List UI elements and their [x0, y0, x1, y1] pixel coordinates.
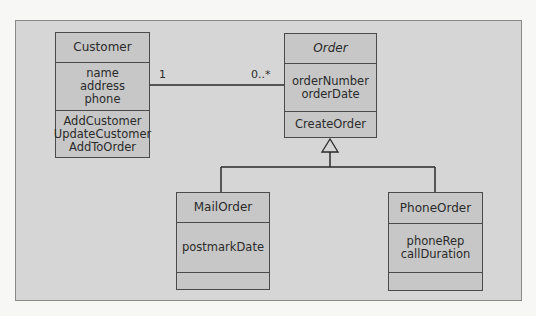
generalization-arrow-icon [322, 139, 338, 152]
class-operations: CreateOrder [285, 111, 376, 137]
class-customer[interactable]: Customer name address phone AddCustomer … [55, 32, 150, 158]
class-order[interactable]: Order orderNumber orderDate CreateOrder [284, 33, 377, 138]
attribute: orderDate [301, 88, 359, 101]
class-name: Customer [56, 33, 149, 62]
class-operations [389, 272, 482, 290]
class-name: Order [285, 34, 376, 63]
attribute: postmarkDate [182, 241, 264, 254]
operation: UpdateCustomer [54, 128, 152, 141]
multiplicity-customer: 1 [159, 68, 166, 81]
class-name: MailOrder [177, 193, 269, 222]
class-operations [177, 272, 269, 289]
class-attributes: postmarkDate [177, 222, 269, 272]
operation: AddCustomer [63, 115, 141, 128]
class-mailorder[interactable]: MailOrder postmarkDate [176, 192, 270, 290]
class-operations: AddCustomer UpdateCustomer AddToOrder [56, 110, 149, 157]
class-name: PhoneOrder [389, 193, 482, 223]
attribute: orderNumber [292, 75, 369, 88]
class-attributes: name address phone [56, 62, 149, 110]
attribute: phone [85, 93, 121, 106]
class-attributes: orderNumber orderDate [285, 63, 376, 111]
operation: AddToOrder [69, 141, 136, 154]
operation: CreateOrder [295, 118, 366, 131]
class-phoneorder[interactable]: PhoneOrder phoneRep callDuration [388, 192, 483, 291]
multiplicity-order: 0..* [251, 68, 271, 81]
class-attributes: phoneRep callDuration [389, 223, 482, 272]
attribute: callDuration [401, 248, 471, 261]
